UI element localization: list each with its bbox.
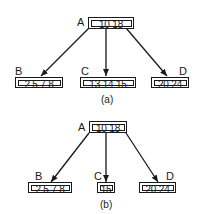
node-box-a: 10 18 [89, 121, 127, 133]
node-box-c: 13 14 15 [80, 77, 136, 88]
node-box-d: 20 24 [151, 77, 189, 88]
node-label-b: B [15, 66, 22, 77]
arrow-a-to-d [126, 28, 167, 76]
node-box-d: 20 24 [139, 182, 176, 193]
node-keys: 13 14 15 [83, 80, 134, 86]
node-keys: 10 18 [91, 20, 132, 27]
node-label-c: C [94, 171, 102, 182]
node-label-d: D [179, 66, 187, 77]
node-label-d: D [166, 171, 174, 182]
node-keys: 2 5 7 8 [18, 80, 61, 86]
caption-a: (a) [101, 95, 113, 105]
node-keys: 20 24 [154, 80, 187, 86]
node-keys: 10 18 [92, 124, 125, 131]
node-label-b: B [35, 171, 42, 182]
node-label-a: A [78, 122, 85, 133]
caption-b: (b) [100, 200, 112, 210]
node-keys: 20 24 [142, 185, 174, 191]
node-keys: 2 5 7 8 [31, 185, 70, 191]
node-box-b: 2 5 7 8 [28, 182, 72, 193]
node-box-a: 10 18 [88, 17, 134, 29]
node-box-c: 15 [97, 182, 115, 193]
node-label-a: A [77, 17, 84, 28]
arrow-a-to-b [51, 133, 89, 182]
node-label-c: C [81, 66, 89, 77]
arrow-a-to-d [126, 133, 158, 182]
node-keys: 15 [100, 185, 113, 191]
node-box-b: 2 5 7 8 [15, 77, 63, 88]
